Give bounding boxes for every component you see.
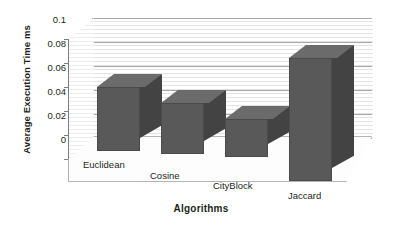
bar-cityblock[interactable]: [225, 106, 268, 178]
x-tick-label-cosine: Cosine: [150, 170, 180, 181]
bar-front-face: [161, 103, 204, 154]
y-tick-label: 0.02: [48, 111, 67, 121]
y-tick-label: 0.08: [48, 39, 67, 49]
bar-jaccard[interactable]: [289, 45, 332, 189]
bar-front-face: [225, 119, 268, 157]
bar-cosine[interactable]: [161, 90, 204, 165]
bar-front-face: [289, 58, 332, 181]
x-tick-label-jaccard: Jaccard: [288, 190, 321, 201]
y-axis-tick-labels: 0.1 0.08 0.06 0.04 0.02 0: [32, 0, 66, 229]
bar-side-face: [332, 45, 354, 168]
y-tick-label: 0.06: [48, 63, 67, 73]
y-tick-label: 0.04: [48, 87, 67, 97]
x-axis-title: Algorithms: [0, 203, 402, 214]
bar-chart: Average Execution Time ms 0.1 0.08 0.06 …: [0, 0, 402, 229]
x-tick-label-euclidean: Euclidean: [83, 159, 125, 170]
plot-area: [68, 18, 372, 166]
x-tick-label-cityblock: CityBlock: [213, 180, 253, 191]
bar-euclidean[interactable]: [97, 74, 140, 151]
y-tick-label: 0: [61, 135, 66, 145]
y-axis-title: Average Execution Time ms: [21, 20, 32, 160]
bar-front-face: [97, 87, 140, 151]
y-tick-label: 0.1: [53, 15, 66, 25]
